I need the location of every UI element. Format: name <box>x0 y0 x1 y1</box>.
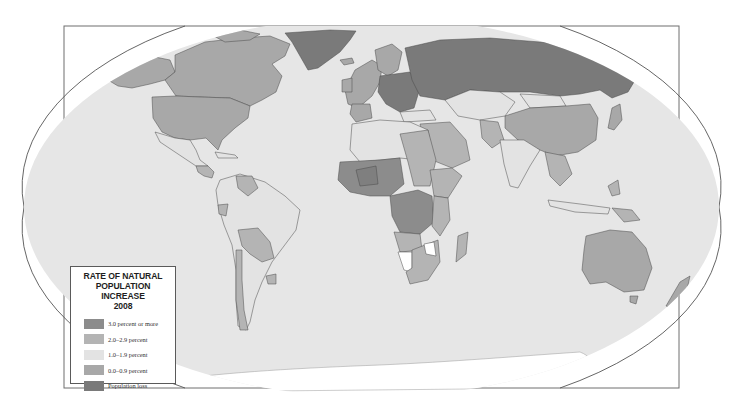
world-map: RATE OF NATURAL POPULATION INCREASE 2008… <box>0 0 740 404</box>
legend-label-0to09: 0.0–0.9 percent <box>108 367 148 374</box>
legend-swatch-0to09 <box>84 365 104 375</box>
legend-swatch-2to29 <box>84 334 104 344</box>
legend-item-0to09: 0.0–0.9 percent <box>75 363 171 379</box>
legend-item-population-loss: Population loss <box>75 378 171 394</box>
legend-label-population-loss: Population loss <box>108 382 147 389</box>
legend-label-1to19: 1.0–1.9 percent <box>108 351 148 358</box>
region-turkey <box>400 110 436 122</box>
legend-swatch-3plus <box>84 319 104 329</box>
region-uruguay <box>266 274 276 284</box>
region-uk <box>342 78 352 92</box>
legend-title-line-1: RATE OF NATURAL <box>75 271 171 281</box>
legend-swatch-1to19 <box>84 350 104 360</box>
legend-title-line-3: 2008 <box>75 301 171 311</box>
legend-swatch-population-loss <box>84 381 104 391</box>
legend-label-2to29: 2.0–2.9 percent <box>108 336 148 343</box>
legend-title-line-2: POPULATION INCREASE <box>75 281 171 301</box>
legend-item-1to19: 1.0–1.9 percent <box>75 347 171 363</box>
legend-label-3plus: 3.0 percent or more <box>108 320 158 327</box>
legend-item-3plus: 3.0 percent or more <box>75 316 171 332</box>
map-legend: RATE OF NATURAL POPULATION INCREASE 2008… <box>70 266 176 384</box>
region-ecuador <box>218 204 228 216</box>
legend-item-2to29: 2.0–2.9 percent <box>75 332 171 348</box>
region-zimbabwe <box>424 242 436 256</box>
legend-title: RATE OF NATURAL POPULATION INCREASE 2008 <box>75 271 171 311</box>
